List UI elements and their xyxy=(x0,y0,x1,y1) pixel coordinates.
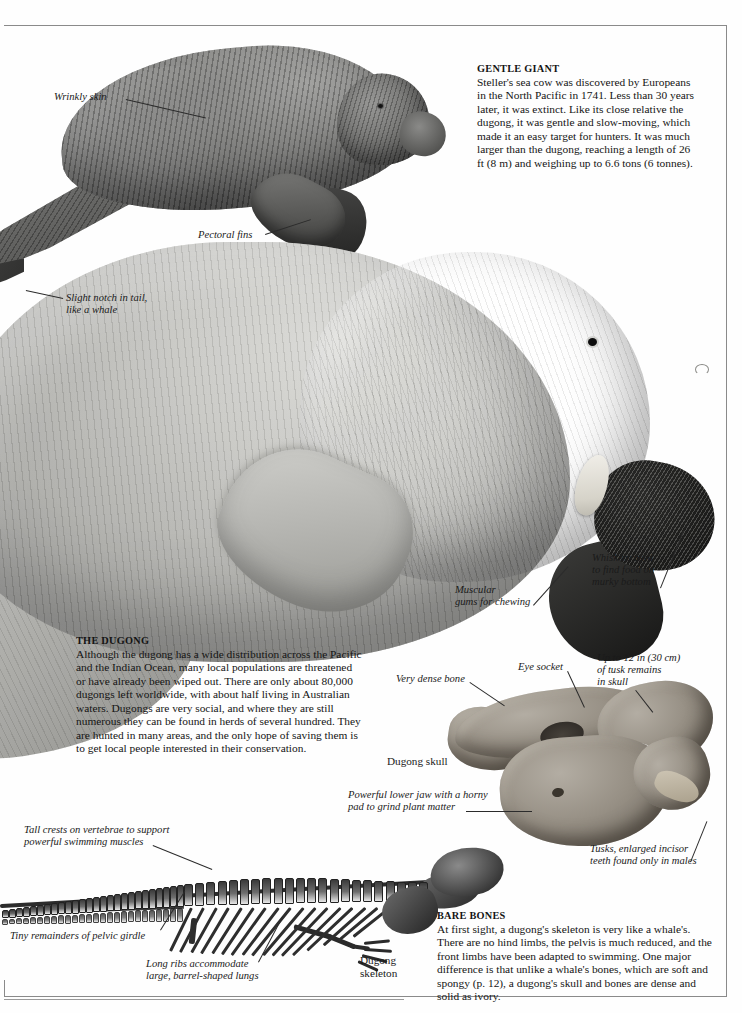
the-dugong-heading: THE DUGONG xyxy=(76,634,364,647)
chevron xyxy=(121,911,127,922)
vertebra xyxy=(9,909,16,918)
vertebra xyxy=(156,888,163,908)
vertebra xyxy=(352,880,361,903)
chevron xyxy=(44,916,50,924)
vertebra xyxy=(262,878,271,904)
vertebra xyxy=(330,879,339,903)
chevron xyxy=(100,913,106,923)
vertebra xyxy=(229,880,238,905)
page-rule-left xyxy=(4,980,5,997)
sea-cow-eye xyxy=(378,104,383,108)
chevron xyxy=(51,916,57,924)
chevron xyxy=(23,918,29,925)
label-powerful-jaw: Powerful lower jaw with a horny pad to g… xyxy=(348,789,488,813)
vertebra xyxy=(285,878,294,904)
article-the-dugong: THE DUGONG Although the dugong has a wid… xyxy=(76,634,364,756)
vertebra xyxy=(107,895,114,911)
vertebra xyxy=(51,903,58,915)
vertebra xyxy=(121,893,128,910)
label-tall-crests: Tall crests on vertebrae to support powe… xyxy=(24,824,169,848)
vertebra xyxy=(307,878,316,903)
chevron xyxy=(72,915,78,924)
label-very-dense-bone: Very dense bone xyxy=(396,673,465,685)
article-bare-bones: BARE BONES At first sight, a dugong's sk… xyxy=(437,909,719,1004)
vertebra xyxy=(274,878,283,904)
chevron xyxy=(58,915,64,923)
chevron xyxy=(93,913,99,923)
vertebra xyxy=(240,879,249,904)
vertebra xyxy=(30,906,37,916)
chevron xyxy=(37,917,43,924)
vertebra xyxy=(44,904,51,915)
label-pelvic-girdle: Tiny remainders of pelvic girdle xyxy=(10,930,145,942)
chevron xyxy=(86,914,92,924)
chevron xyxy=(79,914,85,923)
chevron xyxy=(16,918,22,924)
label-whiskers: Whiskers used to find food on murky bott… xyxy=(592,552,654,589)
dugong-illustration xyxy=(0,212,740,682)
vertebra xyxy=(128,892,135,910)
vertebra xyxy=(58,902,65,914)
chevron xyxy=(135,910,141,922)
vertebra xyxy=(16,908,23,917)
dugong-nostril xyxy=(695,364,709,375)
label-eye-socket: Eye socket xyxy=(518,661,563,673)
label-dugong-skull: Dugong skull xyxy=(387,755,448,768)
vertebra xyxy=(251,879,260,905)
vertebra xyxy=(163,887,170,908)
vertebra xyxy=(374,881,383,902)
vertebra xyxy=(2,910,9,918)
vertebra xyxy=(86,898,93,913)
page-canvas: GENTLE GIANT Steller's sea cow was disco… xyxy=(0,0,742,1013)
chevron xyxy=(142,910,148,922)
label-tusks-incisor: Tusks, enlarged incisor teeth found only… xyxy=(590,843,697,867)
gentle-giant-heading: GENTLE GIANT xyxy=(477,62,699,75)
vertebra xyxy=(184,884,193,906)
label-wrinkly-skin: Wrinkly skin xyxy=(54,91,107,103)
page-rule-top xyxy=(4,25,726,26)
label-dugong-skeleton: Dugong skeleton xyxy=(360,954,397,980)
page-rule-bottom-secondary xyxy=(4,999,404,1000)
vertebra xyxy=(149,889,156,909)
bare-bones-body: At first sight, a dugong's skeleton is v… xyxy=(437,923,719,1004)
vertebra xyxy=(135,891,142,909)
vertebra xyxy=(72,900,79,914)
chevron xyxy=(177,908,183,922)
vertebra xyxy=(218,881,227,905)
chevron xyxy=(114,912,120,923)
gentle-giant-body: Steller's sea cow was discovered by Euro… xyxy=(477,76,699,170)
vertebra xyxy=(341,879,350,902)
vertebra xyxy=(100,896,107,912)
chevron xyxy=(30,917,36,924)
vertebra xyxy=(206,882,215,906)
chevron xyxy=(2,919,8,925)
bare-bones-heading: BARE BONES xyxy=(437,909,719,922)
chevron xyxy=(65,915,71,924)
dugong-eye xyxy=(588,338,597,346)
vertebra xyxy=(296,878,305,904)
leader-powerful-jaw xyxy=(466,811,532,812)
label-muscular-gums: Muscular gums for chewing xyxy=(455,584,530,608)
vertebra xyxy=(93,897,100,912)
label-slight-notch-in-tail: Slight notch in tail, like a whale xyxy=(66,292,147,316)
label-tusk-remains: Up to 12 in (30 cm) of tusk remains in s… xyxy=(597,652,680,689)
chevron xyxy=(149,910,155,923)
vertebra xyxy=(114,894,121,911)
vertebra xyxy=(195,883,204,906)
vertebra xyxy=(142,890,149,909)
vertebra xyxy=(318,878,327,903)
chevron xyxy=(156,909,162,922)
vertebra xyxy=(79,899,86,913)
vertebra xyxy=(363,880,372,902)
vertebra xyxy=(65,901,72,914)
label-pectoral-fins: Pectoral fins xyxy=(198,229,252,241)
article-gentle-giant: GENTLE GIANT Steller's sea cow was disco… xyxy=(477,62,699,170)
chevron xyxy=(107,912,113,923)
vertebra xyxy=(37,905,44,916)
vertebra xyxy=(23,907,30,917)
label-long-ribs: Long ribs accommodate large, barrel-shap… xyxy=(146,958,259,982)
the-dugong-body: Although the dugong has a wide distribut… xyxy=(76,648,364,756)
chevron xyxy=(9,919,15,925)
chevron xyxy=(128,911,134,923)
